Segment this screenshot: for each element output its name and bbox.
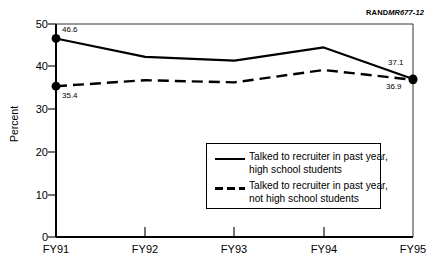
series-line-high-school-students <box>56 38 413 78</box>
legend-swatch-dashed-icon <box>215 181 245 195</box>
legend-label-high-school-students: Talked to recruiter in past year, high s… <box>249 151 388 176</box>
legend-entry-not-high-school-students: Talked to recruiter in past year, not hi… <box>215 180 388 205</box>
series-line-not-high-school-students <box>56 70 413 86</box>
figure-container: RANDMR677-12 Percent 50 40 30 20 10 0 FY… <box>0 0 434 272</box>
plot-area <box>0 0 434 272</box>
legend-label-line2: high school students <box>249 164 388 177</box>
legend-label-line1: Talked to recruiter in past year, <box>249 151 388 164</box>
marker-solid-fy91 <box>52 34 61 43</box>
legend-swatch-solid-icon <box>215 152 245 166</box>
marker-dashed-fy95 <box>409 75 418 84</box>
legend-label-not-high-school-students: Talked to recruiter in past year, not hi… <box>249 180 388 205</box>
legend-entry-high-school-students: Talked to recruiter in past year, high s… <box>215 151 388 176</box>
legend-label-line1: Talked to recruiter in past year, <box>249 180 388 193</box>
legend-label-line2: not high school students <box>249 193 388 206</box>
marker-dashed-fy91 <box>52 82 61 91</box>
legend: Talked to recruiter in past year, high s… <box>206 143 381 209</box>
